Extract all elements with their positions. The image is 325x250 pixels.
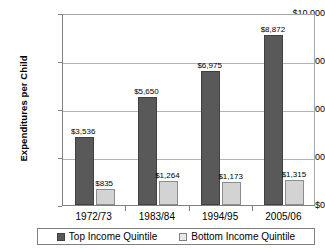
bar-top-income-quintile xyxy=(264,35,283,205)
bar-value-label: $1,173 xyxy=(218,172,242,181)
bar-top-income-quintile xyxy=(201,71,220,205)
y-axis-tick-mark xyxy=(58,206,62,207)
bar-value-label: $1,264 xyxy=(155,171,179,180)
bar-value-label: $3,536 xyxy=(71,127,95,136)
legend: Top Income QuintileBottom Income Quintil… xyxy=(37,228,315,245)
bar-value-label: $6,975 xyxy=(197,61,221,70)
x-axis-category-label: 1972/73 xyxy=(76,211,112,222)
x-axis-tick-mark xyxy=(189,206,190,211)
bar-value-label: $835 xyxy=(95,179,113,188)
bar-value-label: $1,315 xyxy=(282,170,306,179)
x-axis-category-label: 2005/06 xyxy=(265,211,301,222)
legend-swatch-icon xyxy=(57,233,65,241)
bar-top-income-quintile xyxy=(138,97,157,205)
bar-bottom-income-quintile xyxy=(285,180,304,205)
bar-bottom-income-quintile xyxy=(222,182,241,205)
bar-bottom-income-quintile xyxy=(96,189,115,205)
legend-label: Top Income Quintile xyxy=(69,231,157,242)
x-axis-category-label: 1983/84 xyxy=(139,211,175,222)
legend-item-top-income-quintile[interactable]: Top Income Quintile xyxy=(57,231,157,242)
bar-top-income-quintile xyxy=(75,137,94,205)
legend-swatch-icon xyxy=(179,233,187,241)
x-axis-tick-mark xyxy=(252,206,253,211)
x-axis-tick-mark xyxy=(125,206,126,211)
x-axis-category-label: 1994/95 xyxy=(202,211,238,222)
bar-value-label: $8,872 xyxy=(261,25,285,34)
bar-bottom-income-quintile xyxy=(159,181,178,205)
bar-value-label: $5,650 xyxy=(134,87,158,96)
legend-item-bottom-income-quintile[interactable]: Bottom Income Quintile xyxy=(179,231,295,242)
plot-area xyxy=(62,14,315,206)
legend-label: Bottom Income Quintile xyxy=(191,231,295,242)
y-axis-title: Expenditures per Child xyxy=(18,29,29,189)
bar-chart: Expenditures per Child $0$2,500$5,000$7,… xyxy=(0,0,325,250)
